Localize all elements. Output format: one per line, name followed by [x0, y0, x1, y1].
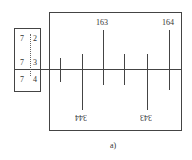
- small-scale-minor-3: 4: [33, 76, 37, 84]
- tick-4: [124, 54, 125, 85]
- tick-6-long-top: [169, 30, 170, 90]
- small-scale-minor-1: 2: [33, 35, 37, 43]
- small-scale-dotted-axis: [30, 34, 31, 76]
- label-164: 164: [162, 19, 174, 27]
- small-scale-major-3: 7: [20, 76, 24, 84]
- label-344-inverted: 344: [75, 113, 87, 121]
- tick-3-long-top: [103, 30, 104, 85]
- small-scale-major-2: 7: [20, 59, 24, 67]
- figure-caption: a): [110, 142, 116, 150]
- tick-1: [60, 58, 61, 82]
- label-343-inverted: 343: [140, 113, 152, 121]
- tick-2-long-bottom: [82, 54, 83, 110]
- large-scale-box: [49, 12, 182, 131]
- small-scale-index-line: [14, 69, 49, 70]
- small-scale-minor-2: 3: [33, 59, 37, 67]
- small-scale-major-1: 7: [20, 35, 24, 43]
- tick-5-long-bottom: [147, 54, 148, 110]
- label-163: 163: [96, 19, 108, 27]
- large-scale-index-line: [49, 69, 182, 70]
